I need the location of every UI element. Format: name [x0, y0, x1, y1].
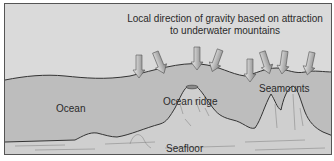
label-seafloor: Seafloor [166, 144, 203, 154]
title-line-2: to underwater mountains [117, 25, 332, 37]
diagram-frame: Local direction of gravity based on attr… [4, 3, 332, 155]
label-ocean: Ocean [56, 104, 85, 114]
diagram-title: Local direction of gravity based on attr… [117, 13, 332, 37]
title-line-1: Local direction of gravity based on attr… [117, 13, 332, 25]
label-ocean-ridge: Ocean ridge [163, 97, 217, 107]
label-seamounts: Seamounts [259, 84, 310, 94]
ridge-summit [186, 85, 198, 89]
